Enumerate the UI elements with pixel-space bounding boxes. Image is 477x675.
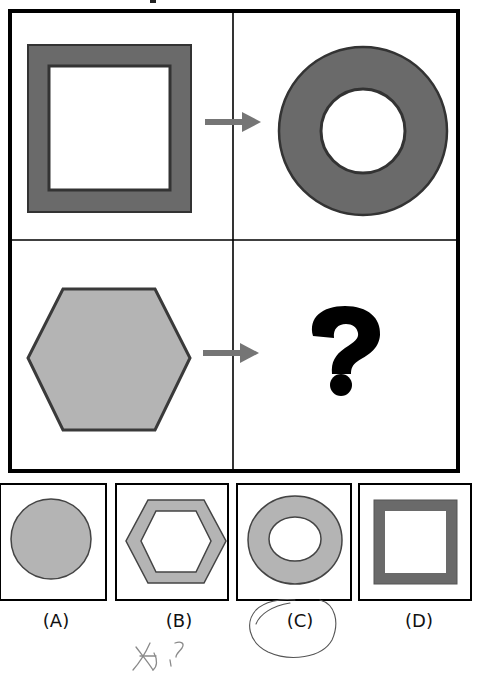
cell-top-left-square-frame <box>28 45 191 212</box>
option-b[interactable] <box>116 484 228 600</box>
handwritten-note <box>133 642 183 670</box>
option-c-label: (C) <box>270 609 330 633</box>
option-d-label: (D) <box>389 609 449 633</box>
puzzle-graphic <box>0 0 477 675</box>
question-grid <box>10 11 458 471</box>
puzzle-page: (A) (B) (C) (D) <box>0 0 477 675</box>
option-a[interactable] <box>0 484 106 600</box>
title-fragment <box>150 0 156 3</box>
option-d[interactable] <box>359 484 471 600</box>
option-b-label: (B) <box>149 609 209 633</box>
cell-bottom-left-hexagon <box>28 289 190 430</box>
cell-top-right-ring <box>279 47 447 215</box>
option-a-label: (A) <box>26 609 86 633</box>
option-c[interactable] <box>237 484 351 600</box>
answer-options <box>0 484 471 600</box>
